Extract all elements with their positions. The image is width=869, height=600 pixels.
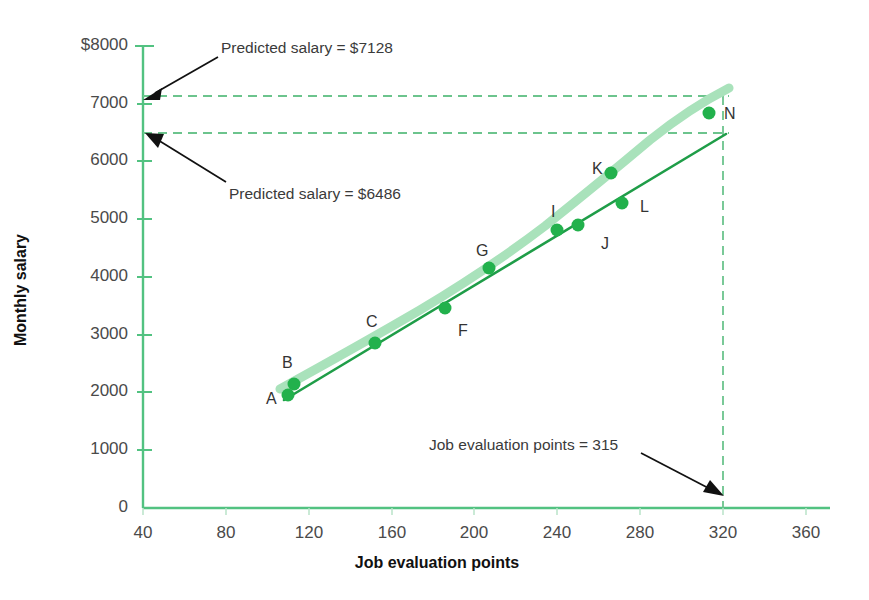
- point-label-l: L: [640, 198, 649, 215]
- annotation-predicted-salary-high: Predicted salary = $7128: [221, 39, 393, 56]
- point-label-f: F: [458, 322, 468, 339]
- x-tick-label: 200: [460, 523, 488, 542]
- arrow-head-315: [703, 480, 724, 496]
- data-point[interactable]: [703, 107, 716, 120]
- y-tick-label: 1000: [90, 439, 128, 458]
- point-label-i: I: [551, 203, 555, 220]
- arrow-line-7128: [155, 57, 218, 93]
- x-tick-label: 280: [626, 523, 654, 542]
- x-tick-label: 320: [709, 523, 737, 542]
- y-axis-title: Monthly salary: [12, 234, 29, 346]
- y-tick-label: 5000: [90, 208, 128, 227]
- x-tick-label: 360: [792, 523, 820, 542]
- y-tick-label: 2000: [90, 381, 128, 400]
- point-label-a: A: [266, 390, 277, 407]
- x-tick-label: 160: [378, 523, 406, 542]
- x-tick-label: 40: [134, 523, 153, 542]
- x-tick-label: 80: [217, 523, 236, 542]
- data-point[interactable]: [288, 378, 301, 391]
- point-label-b: B: [282, 354, 293, 371]
- data-point[interactable]: [483, 262, 496, 275]
- data-point[interactable]: [551, 224, 564, 237]
- x-axis-title: Job evaluation points: [355, 554, 520, 571]
- point-label-g: G: [476, 242, 488, 259]
- regression-line: [284, 134, 726, 400]
- data-point[interactable]: [616, 197, 629, 210]
- point-label-n: N: [724, 105, 736, 122]
- y-tick-label: 3000: [90, 324, 128, 343]
- data-point[interactable]: [572, 219, 585, 232]
- point-label-k: K: [592, 160, 603, 177]
- data-point[interactable]: [605, 167, 618, 180]
- chart-figure: $8000 7000 6000 5000 4000 3000 2000 1000…: [0, 0, 869, 600]
- arrow-line-315: [641, 453, 714, 491]
- point-label-j: J: [601, 235, 609, 252]
- annotation-job-evaluation-points: Job evaluation points = 315: [429, 436, 618, 453]
- data-point[interactable]: [369, 337, 382, 350]
- y-tick-label: $8000: [81, 35, 128, 54]
- arrow-line-6486: [158, 140, 226, 182]
- annotation-arrows-group: [143, 57, 724, 496]
- data-point[interactable]: [439, 302, 452, 315]
- data-points-group: [282, 107, 716, 402]
- arrow-head-6486: [145, 133, 164, 148]
- y-tick-label: 6000: [90, 150, 128, 169]
- x-tick-label: 240: [543, 523, 571, 542]
- point-label-c: C: [366, 313, 378, 330]
- y-ticks-group: [135, 46, 154, 450]
- y-tick-label: 0: [119, 497, 128, 516]
- chart-canvas: $8000 7000 6000 5000 4000 3000 2000 1000…: [0, 0, 869, 600]
- y-tick-label: 7000: [90, 93, 128, 112]
- x-tick-label: 120: [295, 523, 323, 542]
- y-tick-label: 4000: [90, 266, 128, 285]
- annotation-predicted-salary-low: Predicted salary = $6486: [229, 185, 401, 202]
- data-point[interactable]: [282, 389, 295, 402]
